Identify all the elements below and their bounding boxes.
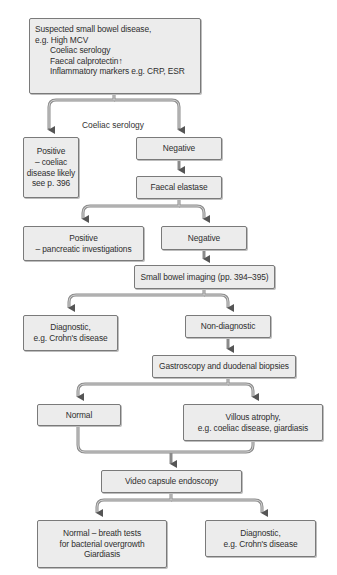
node-text: Negative <box>188 233 220 244</box>
node-text: Diagnostic, <box>240 528 280 539</box>
branch-label-coeliac-serology: Coeliac serology <box>82 120 144 130</box>
node-text: Video capsule endoscopy <box>125 476 218 487</box>
node-text: e.g. Crohn's disease <box>33 333 107 344</box>
node-text: see p. 396 <box>32 178 70 189</box>
node-text: e.g. High MCV <box>35 35 88 46</box>
node-suspected-small-bowel-disease: Suspected small bowel disease, e.g. High… <box>29 18 201 94</box>
node-text: for bacterial overgrowth <box>59 539 144 550</box>
node-text: Normal <box>66 410 92 421</box>
node-coeliac-positive: Positive – coeliac disease likely see p.… <box>23 137 79 198</box>
node-text: Negative <box>163 143 195 154</box>
node-gastroscopy-biopsies: Gastroscopy and duodenal biopsies <box>152 355 296 378</box>
node-elastase-positive: Positive – pancreatic investigations <box>23 226 144 261</box>
node-text: e.g. coeliac disease, giardiasis <box>198 423 308 434</box>
node-imaging-non-diagnostic: Non-diagnostic <box>185 315 271 338</box>
node-text: Inflammatory markers e.g. CRP, ESR <box>35 66 185 77</box>
node-capsule-diagnostic: Diagnostic, e.g. Crohn's disease <box>205 520 316 557</box>
node-text: Suspected small bowel disease, <box>35 24 151 35</box>
node-text: Faecal elastase <box>150 182 207 193</box>
node-text: Normal – breath tests <box>63 528 141 539</box>
node-text: Giardiasis <box>84 549 120 560</box>
node-text: Diagnostic, <box>50 322 90 333</box>
node-text: disease likely <box>27 168 75 179</box>
node-capsule-normal: Normal – breath tests for bacterial over… <box>37 520 167 568</box>
node-text: Villous atrophy, <box>226 412 281 423</box>
node-text: Positive <box>37 146 66 157</box>
node-elastase-negative: Negative <box>161 226 247 250</box>
small-bowel-flowchart: Suspected small bowel disease, e.g. High… <box>0 0 337 575</box>
node-small-bowel-imaging: Small bowel imaging (pp. 394–395) <box>134 265 275 289</box>
node-text: Faecal calprotectin↑ <box>35 56 122 67</box>
node-biopsy-normal: Normal <box>37 404 121 426</box>
node-text: Coeliac serology <box>35 45 110 56</box>
node-coeliac-negative: Negative <box>136 137 222 160</box>
node-text: – coeliac <box>35 157 67 168</box>
node-text: – pancreatic investigations <box>36 244 132 255</box>
node-video-capsule-endoscopy: Video capsule endoscopy <box>101 470 242 493</box>
node-text: Small bowel imaging (pp. 394–395) <box>141 272 269 283</box>
node-text: Non-diagnostic <box>201 321 255 332</box>
node-imaging-diagnostic: Diagnostic, e.g. Crohn's disease <box>23 315 118 351</box>
node-faecal-elastase: Faecal elastase <box>136 176 222 199</box>
node-text: Gastroscopy and duodenal biopsies <box>159 361 289 372</box>
node-text: e.g. Crohn's disease <box>223 539 297 550</box>
node-villous-atrophy: Villous atrophy, e.g. coeliac disease, g… <box>183 404 323 441</box>
node-text: Positive <box>69 233 98 244</box>
